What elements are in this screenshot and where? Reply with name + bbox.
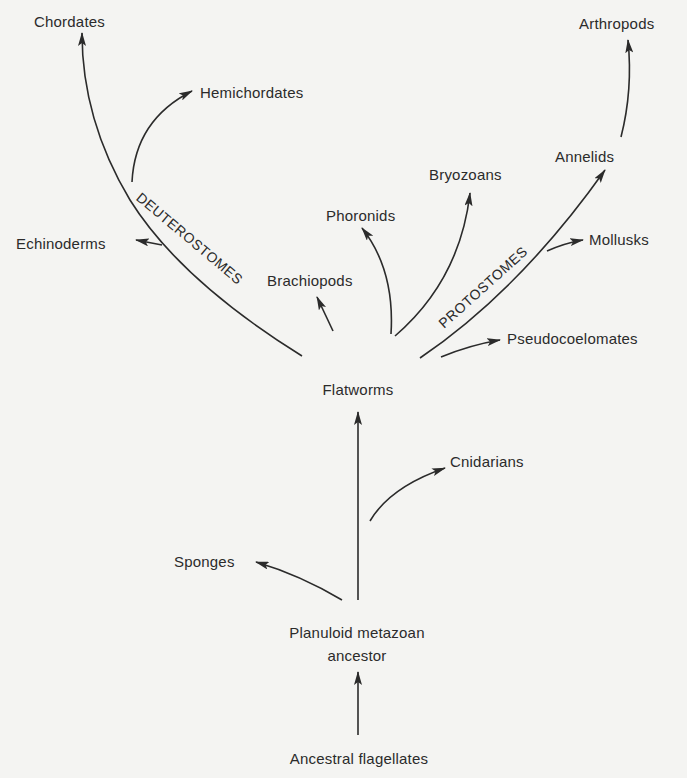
node-hemichordates: Hemichordates [200, 85, 303, 100]
edge-deuterostomes-to-chordates [82, 33, 302, 356]
node-ancestral-flagellates: Ancestral flagellates [290, 751, 428, 766]
edge-to-brachiopods [317, 297, 333, 331]
phylogeny-diagram: Chordates Hemichordates Echinoderms Brac… [0, 0, 687, 778]
edge-planuloid-to-cnidarians [370, 468, 445, 521]
node-phoronids: Phoronids [326, 208, 395, 223]
edge-to-phoronids [362, 228, 391, 334]
node-mollusks: Mollusks [589, 232, 649, 247]
node-bryozoans: Bryozoans [429, 167, 502, 182]
edge-planuloid-to-sponges [256, 562, 342, 600]
edge-to-echinoderms [136, 240, 162, 245]
node-flatworms: Flatworms [323, 382, 394, 397]
node-pseudocoelomates: Pseudocoelomates [507, 331, 638, 346]
node-brachiopods: Brachiopods [267, 273, 353, 288]
node-planuloid-line2: ancestor [327, 648, 386, 663]
edge-to-pseudocoelomates [441, 340, 500, 357]
node-arthropods: Arthropods [579, 16, 654, 31]
node-planuloid-line1: Planuloid metazoan [289, 625, 424, 640]
node-sponges: Sponges [174, 554, 235, 569]
node-chordates: Chordates [34, 14, 105, 29]
edge-annelids-to-arthropods [621, 40, 629, 137]
edge-to-hemichordates [132, 91, 192, 182]
node-echinoderms: Echinoderms [16, 236, 106, 251]
node-annelids: Annelids [555, 149, 614, 164]
edge-to-mollusks [547, 240, 583, 251]
node-cnidarians: Cnidarians [450, 454, 524, 469]
